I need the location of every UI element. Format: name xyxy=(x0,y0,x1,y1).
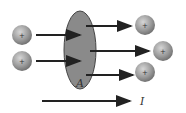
plus-sign: + xyxy=(19,58,25,66)
outgoing-charge: + xyxy=(135,15,155,35)
plus-sign: + xyxy=(19,32,25,40)
current-label: I xyxy=(139,95,145,108)
surface-label: A xyxy=(75,77,84,90)
plus-sign: + xyxy=(142,22,148,30)
incoming-charge: + xyxy=(12,25,32,45)
outgoing-charge: + xyxy=(153,41,173,61)
incoming-charge: + xyxy=(12,51,32,71)
plus-sign: + xyxy=(160,48,166,56)
plus-sign: + xyxy=(142,69,148,77)
outgoing-charge: + xyxy=(135,62,155,82)
current-diagram: + + A + + + I xyxy=(0,0,186,113)
